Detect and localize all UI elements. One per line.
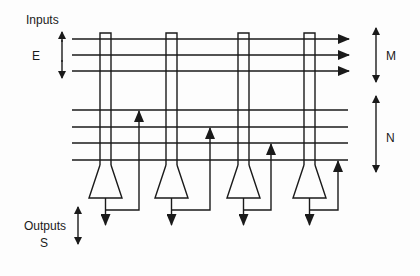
feedback-path-3 <box>244 144 272 210</box>
outputs-label: Outputs <box>24 219 66 233</box>
column-bus-2 <box>166 33 177 165</box>
diagram-canvas: Inputs E M N Outputs S <box>0 0 420 276</box>
amplifier-4 <box>293 165 326 198</box>
m-label: M <box>386 49 396 63</box>
e-label: E <box>32 49 40 63</box>
feedback-path-4 <box>310 161 339 210</box>
n-label: N <box>386 131 395 145</box>
amplifier-3 <box>227 165 260 198</box>
crossbar-diagram: Inputs E M N Outputs S <box>0 0 420 276</box>
inputs-label: Inputs <box>26 13 59 27</box>
amplifier-2 <box>155 165 188 198</box>
column-bus-4 <box>304 33 315 165</box>
column-bus-3 <box>238 33 249 165</box>
column-bus-1 <box>100 33 111 165</box>
s-label: S <box>40 236 48 250</box>
amplifier-1 <box>89 165 122 198</box>
